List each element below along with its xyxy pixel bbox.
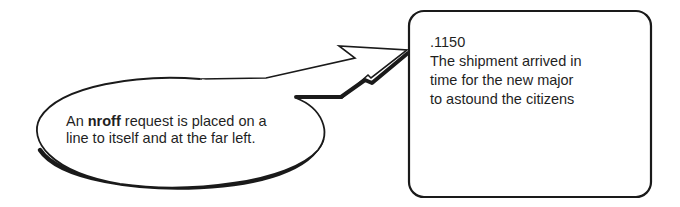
callout-line-2: line to itself and at the far left. — [66, 130, 316, 147]
request-line: .1150 — [430, 33, 645, 52]
callout-text: An nroff request is placed on a line to … — [66, 113, 316, 147]
text-line-3: to astound the citizens — [430, 90, 645, 109]
callout-line-1: An nroff request is placed on a — [66, 113, 316, 130]
example-box-text: .1150 The shipment arrived in time for t… — [430, 33, 645, 109]
nroff-keyword: nroff — [88, 113, 121, 129]
text-line-1: The shipment arrived in — [430, 52, 645, 71]
text-line-2: time for the new major — [430, 71, 645, 90]
